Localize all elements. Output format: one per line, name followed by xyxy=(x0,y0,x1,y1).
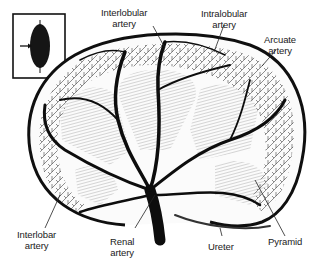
label-interlobular-artery: Interlobular artery xyxy=(101,7,147,29)
label-intralobular-artery: Intralobular artery xyxy=(201,8,247,30)
label-arcuate-artery: Arcuate artery xyxy=(264,34,296,56)
label-pyramid: Pyramid xyxy=(268,236,302,247)
label-ureter: Ureter xyxy=(208,241,234,252)
label-interlobar-artery: Interlobar artery xyxy=(17,229,56,251)
label-renal-artery: Renal artery xyxy=(110,236,134,258)
